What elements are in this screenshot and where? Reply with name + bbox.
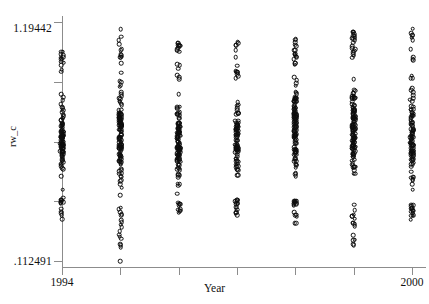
data-point [294,96,299,101]
x-axis-tick-label-1994: 1994 [51,276,74,288]
data-point [233,156,238,161]
y-axis-min-label-wrap: .112491 [0,255,52,267]
data-point [117,96,122,101]
data-point [408,141,413,146]
data-point [234,202,239,207]
data-point [292,97,297,102]
data-point [175,139,180,144]
data-point [119,185,124,190]
data-point [176,145,181,150]
data-point [293,139,298,144]
data-point [409,136,414,141]
data-point [119,245,124,250]
data-point [177,75,182,80]
data-point [292,147,297,152]
data-point [177,142,182,147]
data-point [352,222,357,227]
data-point [235,208,240,213]
data-point [411,126,416,131]
data-point [176,67,181,72]
data-point [350,146,355,151]
data-point [408,107,413,112]
data-point [353,208,358,213]
data-point [176,43,181,48]
data-point [117,135,122,140]
data-point [294,159,299,164]
data-point [119,117,124,122]
data-point [350,132,355,137]
data-point [410,113,415,118]
data-point [233,76,238,81]
data-point [119,92,124,97]
data-point [353,126,358,131]
data-point [293,37,298,42]
data-point [176,144,181,149]
data-point [177,121,182,126]
data-point [292,116,297,121]
data-point [118,111,123,116]
data-point [177,210,182,215]
data-point [408,97,413,102]
data-point [234,146,239,151]
data-point [236,129,241,134]
data-point [295,215,300,220]
data-point [293,141,298,146]
data-point [119,166,124,171]
y-axis-tick [54,261,62,262]
data-point [410,130,415,135]
data-point [176,121,181,126]
data-point [175,191,180,196]
data-point [175,167,180,172]
data-point [117,99,122,104]
data-point [294,152,299,157]
data-point [235,138,240,143]
data-point [176,111,181,116]
data-point [175,151,180,156]
data-point [293,119,298,124]
data-point [294,81,299,86]
data-point [294,111,299,116]
data-point [117,99,122,104]
data-point [293,162,298,167]
data-point [351,115,356,120]
data-point [234,146,239,151]
data-point [236,111,241,116]
data-point [351,30,356,35]
data-point [411,58,416,63]
data-point [350,102,355,107]
data-point [117,111,122,116]
data-point [176,148,181,153]
data-point [351,50,356,55]
data-point [235,144,240,149]
data-point [294,171,299,176]
data-point [236,159,241,164]
data-point [352,151,357,156]
data-point [116,108,121,113]
data-point [235,154,240,159]
data-point [176,201,181,206]
data-point [118,210,123,215]
data-point [177,43,182,48]
data-point [117,147,122,152]
data-point [411,111,416,116]
data-point [295,121,300,126]
data-point [410,131,415,136]
data-point [117,118,122,123]
data-point [119,145,124,150]
data-point [409,207,414,212]
data-point [293,134,298,139]
data-point [117,146,122,151]
data-point [119,121,124,126]
data-point [117,127,122,132]
data-point [176,132,181,137]
data-point [177,182,182,187]
data-point [293,105,298,110]
data-point [177,157,182,162]
data-point [293,114,298,119]
data-point [409,123,414,128]
data-point [410,175,415,180]
data-point [295,55,300,60]
data-point [292,199,297,204]
data-point [409,104,414,109]
data-point [178,129,183,134]
